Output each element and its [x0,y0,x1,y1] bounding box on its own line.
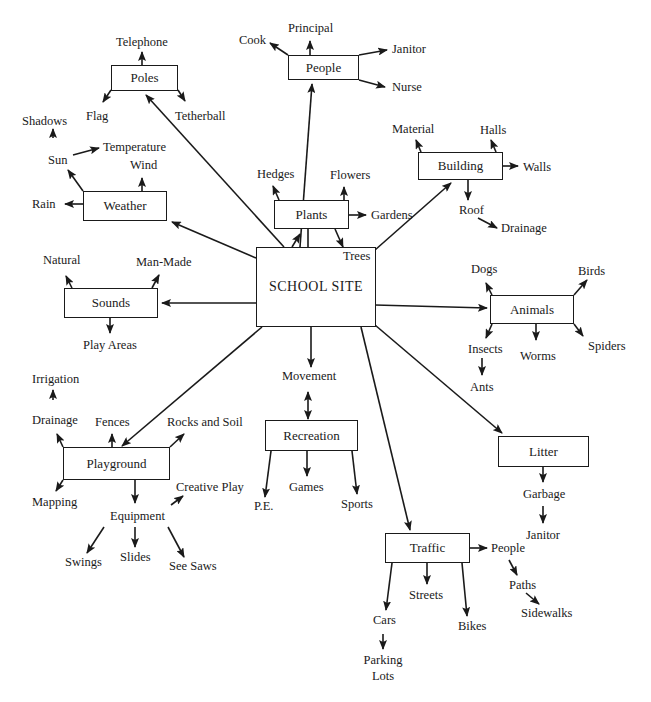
ants-label: Ants [470,381,494,394]
flowers-label: Flowers [330,169,370,182]
cars-label: Cars [373,614,396,627]
streets-label: Streets [409,589,443,602]
hedges-label: Hedges [257,168,295,181]
weather-label: Weather [104,198,147,214]
fences-label: Fences [95,416,130,429]
drainage-label-building: Drainage [501,222,547,235]
playground-box: Playground [63,447,170,480]
sounds-box: Sounds [64,288,158,318]
cook-label: Cook [239,34,266,47]
school-site-label: SCHOOL SITE [269,279,363,295]
arrow-to-weather [172,222,256,258]
sounds-label: Sounds [92,295,130,311]
paths-label: Paths [509,579,536,592]
telephone-label: Telephone [116,36,168,49]
roof-label: Roof [459,204,484,217]
people-box: People [288,55,359,80]
recreation-box: Recreation [265,420,358,451]
people-label-traffic: People [491,542,525,555]
poles-label: Poles [130,70,158,86]
see-saws-label: See Saws [169,560,217,573]
playground-label: Playground [87,456,147,472]
arrow-to-plants [292,234,300,247]
irrigation-label: Irrigation [32,373,79,386]
material-label: Material [392,123,434,136]
weather-box: Weather [83,191,167,221]
building-box: Building [418,152,503,180]
man-made-label: Man-Made [136,256,192,269]
creative-play-label: Creative Play [176,481,244,494]
poles-box: Poles [111,65,178,91]
tetherball-label: Tetherball [175,110,226,123]
animals-box: Animals [490,295,574,324]
insects-label: Insects [468,343,503,356]
movement-label: Movement [282,370,336,383]
walls-label: Walls [523,161,551,174]
parking-lots-label: Parking Lots [358,653,408,684]
people-label: People [306,60,341,76]
spiders-label: Spiders [588,340,626,353]
gardens-label: Gardens [371,209,413,222]
arrow-to-animals [375,305,487,308]
janitor-label-people: Janitor [392,43,426,56]
recreation-label: Recreation [283,428,339,444]
sun-label: Sun [48,154,67,167]
temperature-label: Temperature [103,141,166,154]
halls-label: Halls [480,124,506,137]
plants-label: Plants [296,207,328,223]
litter-box: Litter [498,436,589,467]
rain-label: Rain [32,198,56,211]
rocks-and-soil-label: Rocks and Soil [167,416,243,429]
slides-label: Slides [120,551,151,564]
shadows-label: Shadows [22,115,67,128]
wind-label: Wind [130,159,157,172]
janitor-label-litter: Janitor [526,529,560,542]
nurse-label: Nurse [392,81,422,94]
parking-lots-text: Parking Lots [364,653,403,683]
dogs-label: Dogs [471,263,497,276]
school-site-concept-web: SCHOOL SITE Poles People Weather Plants … [0,0,651,702]
flag-label: Flag [86,110,108,123]
traffic-box: Traffic [385,533,470,563]
swings-label: Swings [65,556,102,569]
plants-box: Plants [274,200,349,229]
bikes-label: Bikes [458,620,486,633]
games-label: Games [289,481,324,494]
worms-label: Worms [520,350,556,363]
building-label: Building [438,158,484,174]
trees-label: Trees [343,250,370,263]
mapping-label: Mapping [32,496,77,509]
principal-label: Principal [288,22,333,35]
sports-label: Sports [341,498,373,511]
litter-label: Litter [529,444,558,460]
drainage-label-playground: Drainage [32,414,78,427]
traffic-label: Traffic [410,540,445,556]
sidewalks-label: Sidewalks [521,607,572,620]
animals-label: Animals [510,302,554,318]
play-areas-label: Play Areas [83,339,137,352]
pe-label: P.E. [254,500,273,513]
birds-label: Birds [578,265,605,278]
natural-label: Natural [43,254,80,267]
equipment-label: Equipment [110,510,165,523]
garbage-label: Garbage [523,488,565,501]
